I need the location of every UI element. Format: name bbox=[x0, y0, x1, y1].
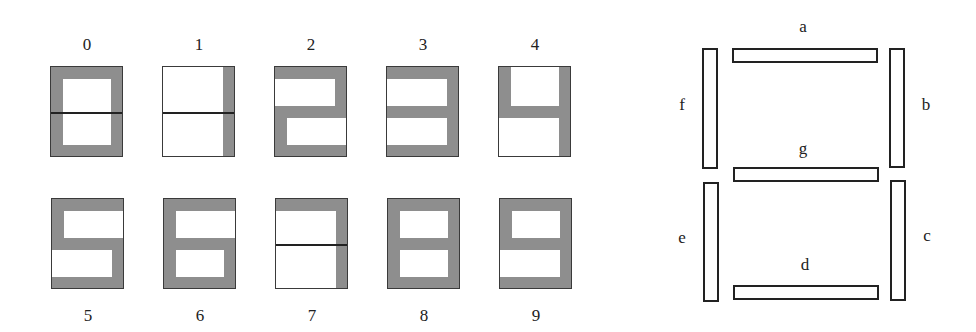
segment-g bbox=[733, 167, 879, 182]
segment-label-b: b bbox=[922, 96, 931, 113]
digit-label-7: 7 bbox=[308, 307, 317, 324]
segment-label-f: f bbox=[679, 96, 685, 113]
digit-label-5: 5 bbox=[84, 307, 93, 324]
segment-c bbox=[890, 180, 906, 301]
digit-label-1: 1 bbox=[195, 36, 204, 53]
segment-label-e: e bbox=[678, 229, 686, 246]
lit-segment-d bbox=[164, 277, 236, 289]
digit-8 bbox=[387, 198, 460, 289]
segment-a bbox=[732, 48, 878, 63]
divider-line bbox=[276, 244, 347, 246]
digit-6 bbox=[163, 198, 236, 289]
digit-label-3: 3 bbox=[419, 36, 428, 53]
digit-3 bbox=[386, 66, 459, 157]
digit-label-2: 2 bbox=[307, 36, 316, 53]
segment-e bbox=[703, 182, 719, 302]
digit-1 bbox=[162, 66, 235, 157]
segment-b bbox=[889, 48, 905, 168]
lit-segment-g bbox=[500, 238, 572, 250]
digit-0 bbox=[50, 66, 123, 157]
segment-d bbox=[733, 285, 879, 300]
segment-label-d: d bbox=[801, 256, 810, 273]
lit-segment-f bbox=[51, 67, 63, 118]
lit-segment-d bbox=[52, 277, 124, 289]
digit-5 bbox=[51, 198, 124, 289]
lit-segment-d bbox=[275, 145, 347, 157]
digit-4 bbox=[498, 66, 571, 157]
divider-line bbox=[51, 112, 122, 114]
digit-label-9: 9 bbox=[532, 307, 541, 324]
lit-segment-c bbox=[223, 106, 235, 157]
divider-line bbox=[163, 112, 234, 114]
digit-label-0: 0 bbox=[83, 36, 92, 53]
digit-label-4: 4 bbox=[531, 36, 540, 53]
lit-segment-c bbox=[559, 106, 571, 157]
digit-9 bbox=[499, 198, 572, 289]
segment-label-g: g bbox=[799, 140, 808, 157]
lit-segment-d bbox=[387, 145, 459, 157]
digit-7 bbox=[275, 198, 348, 289]
segment-label-c: c bbox=[923, 227, 931, 244]
segment-label-a: a bbox=[799, 18, 807, 35]
lit-segment-d bbox=[500, 277, 572, 289]
lit-segment-g bbox=[388, 238, 460, 250]
lit-segment-c bbox=[336, 238, 348, 289]
segment-f bbox=[702, 48, 718, 169]
digit-2 bbox=[274, 66, 347, 157]
digit-label-8: 8 bbox=[420, 307, 429, 324]
digit-label-6: 6 bbox=[196, 307, 205, 324]
